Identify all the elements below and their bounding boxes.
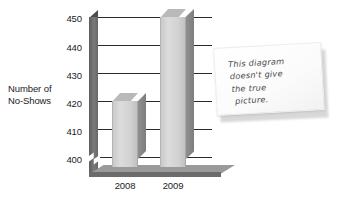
sticky-note-annotation: This diagram doesn't give the true pictu… [215,45,327,123]
gridline-450 [98,17,212,18]
x-tick-label-2008: 2008 [105,180,145,191]
x-tick-label-2009: 2009 [153,180,193,191]
chart-figure: Number of No-Shows 450 440 430 420 410 4… [0,0,341,203]
bar-2008-side-face [138,93,146,159]
chart-floor-edge [89,172,221,177]
gridline-440 [98,45,212,46]
bar-2009-front-face [160,17,186,167]
y-axis-wall [89,17,98,172]
sticky-note-text: This diagram doesn't give the true pictu… [228,53,317,107]
bar-2008-front-face [112,101,138,167]
bar-2009-side-face [186,9,194,159]
sticky-note: This diagram doesn't give the true pictu… [213,42,325,116]
gridline-430 [98,73,212,74]
